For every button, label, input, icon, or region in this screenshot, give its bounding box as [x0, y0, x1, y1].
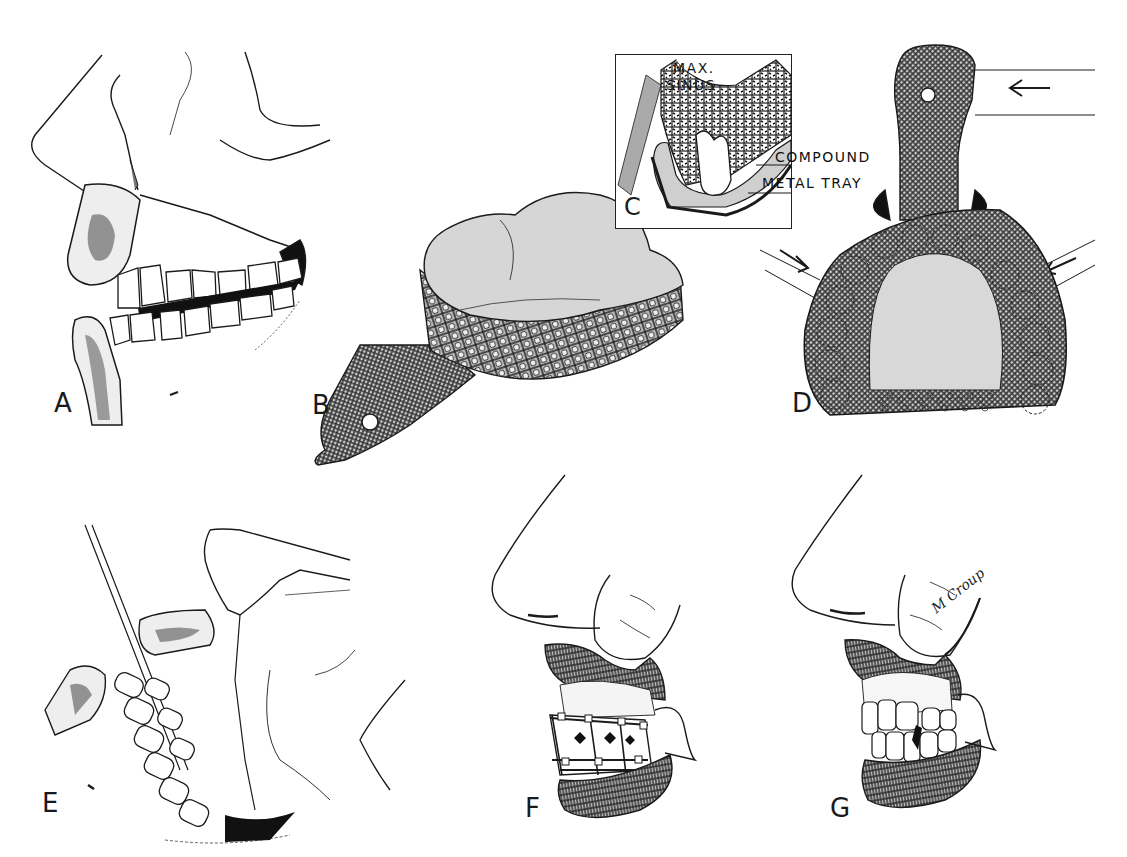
wire-fixation-profile-illustration [30, 470, 430, 850]
panel-label-b: B [312, 392, 330, 418]
panel-label-g: G [830, 795, 850, 821]
panel-g: G M Croup [780, 470, 1080, 850]
tray-occlusal-view-illustration [760, 40, 1120, 440]
panel-e: E [30, 470, 430, 850]
panel-a: A [20, 40, 340, 440]
panel-label-e: E [42, 790, 58, 816]
panel-label-a: A [54, 390, 72, 416]
panel-label-f: F [525, 795, 540, 821]
restored-occlusion-illustration [780, 470, 1080, 850]
panel-label-c: C [624, 195, 641, 219]
skull-profile-illustration [20, 40, 340, 440]
label-max-sinus-line1: MAX. [673, 61, 715, 76]
splint-bar-lip-retraction-illustration [470, 470, 770, 850]
label-max-sinus-line2: SINUS [666, 78, 716, 93]
panel-d: D [760, 40, 1120, 440]
panel-f: F [470, 470, 770, 850]
panel-label-d: D [792, 390, 812, 416]
